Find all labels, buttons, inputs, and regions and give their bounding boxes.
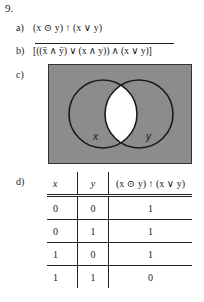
part-a-expression: (x ⊙ y) ↑ (x ∨ y) <box>33 22 102 33</box>
table-row: 1 1 0 <box>47 266 192 289</box>
table-row: 0 1 1 <box>47 220 192 243</box>
header-y: y <box>78 172 109 196</box>
cell-x: 1 <box>47 266 78 289</box>
venn-diagram: x y <box>48 64 192 164</box>
cell-x: 0 <box>47 220 78 243</box>
truth-table-header-row: x y (x ⊙ y) ↑ (x ∨ y) <box>47 172 192 196</box>
cell-y: 0 <box>78 196 109 220</box>
part-b-label: b) <box>16 45 24 56</box>
cell-y: 1 <box>78 266 109 289</box>
cell-x: 1 <box>47 243 78 266</box>
table-row: 0 0 1 <box>47 196 192 220</box>
part-d-label: d) <box>16 176 24 187</box>
header-x: x <box>47 172 78 196</box>
venn-label-y: y <box>146 131 151 142</box>
cell-result: 0 <box>109 266 193 289</box>
cell-y: 0 <box>78 243 109 266</box>
part-b-expression: [((x̄ ∧ ȳ) ∨ (x ∧ y)) ∧ (x ∨ y)] <box>33 45 152 56</box>
cell-result: 1 <box>109 220 193 243</box>
part-a-label: a) <box>16 22 24 33</box>
cell-x: 0 <box>47 196 78 220</box>
cell-y: 1 <box>78 220 109 243</box>
header-expression: (x ⊙ y) ↑ (x ∨ y) <box>109 172 193 196</box>
cell-result: 1 <box>109 243 193 266</box>
venn-label-x: x <box>93 131 98 142</box>
problem-number: 9. <box>5 2 13 14</box>
part-c-label: c) <box>16 69 24 80</box>
cell-result: 1 <box>109 196 193 220</box>
truth-table: x y (x ⊙ y) ↑ (x ∨ y) 0 0 1 0 1 1 1 0 1 … <box>47 172 192 288</box>
table-row: 1 0 1 <box>47 243 192 266</box>
venn-circles-graphic <box>49 65 193 165</box>
negation-overline <box>35 43 174 44</box>
